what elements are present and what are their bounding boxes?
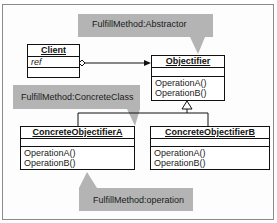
class-concrete-b-operations: OperationA() OperationB() xyxy=(151,147,269,168)
class-concrete-objectifier-a[interactable]: ConcreteObjectifierA OperationA() Operat… xyxy=(20,126,135,170)
class-objectifier[interactable]: Objectifier OperationA() OperationB() xyxy=(151,55,225,101)
class-concrete-a-name: ConcreteObjectifierA xyxy=(21,127,134,139)
class-concrete-a-operations: OperationA() OperationB() xyxy=(21,147,134,168)
operation-b: OperationB() xyxy=(154,158,269,168)
operation-b: OperationB() xyxy=(155,88,224,98)
class-client[interactable]: Client ref xyxy=(27,44,80,78)
attribute-ref: ref xyxy=(31,57,79,67)
callout-abstractor: FulfillMethod:Abstractor xyxy=(92,19,187,29)
class-objectifier-attributes xyxy=(152,68,224,77)
class-concrete-objectifier-b[interactable]: ConcreteObjectifierB OperationA() Operat… xyxy=(150,126,270,170)
class-client-name: Client xyxy=(28,45,79,57)
operation-a: OperationA() xyxy=(155,78,224,88)
class-concrete-b-name: ConcreteObjectifierB xyxy=(151,127,269,139)
operation-a: OperationA() xyxy=(154,148,269,158)
class-objectifier-name: Objectifier xyxy=(152,56,224,68)
arrowhead-icon xyxy=(144,60,151,66)
callout-concrete-class: FulfillMethod:ConcreteClass xyxy=(21,92,134,102)
class-client-attributes: ref xyxy=(28,57,79,68)
operation-b: OperationB() xyxy=(24,158,134,168)
callout-operation-shape xyxy=(79,172,193,211)
callout-operation: FulfillMethod:operation xyxy=(93,195,184,205)
aggregation-connector xyxy=(79,60,151,66)
generalization-triangle-icon xyxy=(182,101,192,109)
diagram-canvas xyxy=(0,0,277,223)
operation-a: OperationA() xyxy=(24,148,134,158)
class-client-operations xyxy=(28,68,79,69)
class-objectifier-operations: OperationA() OperationB() xyxy=(152,77,224,98)
class-concrete-b-attributes xyxy=(151,139,269,147)
class-concrete-a-attributes xyxy=(21,139,134,147)
